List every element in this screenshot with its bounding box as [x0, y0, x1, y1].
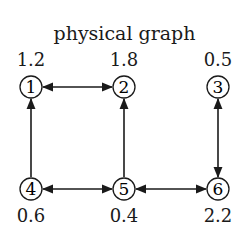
- node-3: 3: [207, 76, 229, 98]
- node-4-value: 0.6: [6, 206, 56, 226]
- node-3-value: 0.5: [193, 50, 243, 70]
- node-2-value: 1.8: [99, 50, 149, 70]
- node-4: 4: [20, 178, 42, 200]
- node-4-label: 4: [26, 179, 37, 199]
- node-5-label: 5: [119, 179, 130, 199]
- node-6-value: 2.2: [193, 206, 243, 226]
- node-6: 6: [207, 178, 229, 200]
- node-1-value: 1.2: [6, 50, 56, 70]
- node-5: 5: [113, 178, 135, 200]
- node-2: 2: [113, 76, 135, 98]
- node-3-label: 3: [213, 77, 224, 97]
- node-5-value: 0.4: [99, 206, 149, 226]
- node-1: 1: [20, 76, 42, 98]
- node-6-label: 6: [213, 179, 224, 199]
- node-2-label: 2: [119, 77, 130, 97]
- node-1-label: 1: [26, 77, 37, 97]
